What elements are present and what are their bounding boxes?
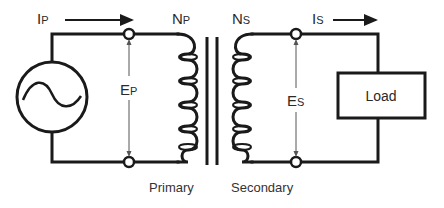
ep-label: EP	[120, 81, 137, 98]
ns-label: NS	[232, 10, 250, 27]
primary-top-terminal	[124, 29, 134, 39]
secondary-coil-icon	[233, 34, 252, 162]
es-label: ES	[287, 92, 304, 109]
ac-source-icon	[17, 62, 87, 132]
iron-core-icon	[207, 37, 217, 165]
is-label: IS	[312, 10, 324, 27]
primary-coil-icon	[178, 34, 197, 162]
ip-label: IP	[37, 10, 49, 27]
secondary-bottom-terminal	[291, 157, 301, 167]
primary-caption: Primary	[149, 180, 194, 195]
load-label: Load	[365, 88, 396, 104]
secondary-bottom-wire	[252, 118, 378, 162]
primary-bottom-terminal	[124, 157, 134, 167]
transformer-diagram: IP NP NS IS EP ES Load Primary Secondary	[0, 0, 444, 208]
primary-bottom-wire	[52, 133, 178, 162]
primary-circuit	[17, 20, 178, 167]
secondary-top-wire	[252, 34, 378, 73]
secondary-caption: Secondary	[231, 180, 294, 195]
secondary-circuit	[252, 20, 425, 167]
primary-top-wire	[52, 34, 178, 61]
secondary-top-terminal	[291, 29, 301, 39]
np-label: NP	[172, 10, 190, 27]
